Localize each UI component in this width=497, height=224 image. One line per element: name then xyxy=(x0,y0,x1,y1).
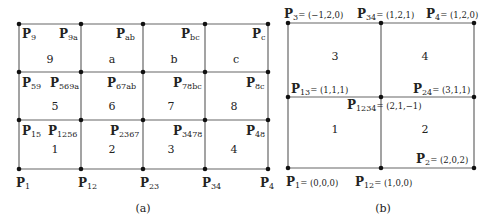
fig-a-point-label: P569a xyxy=(50,76,79,91)
fig-a-point-label: P23 xyxy=(140,176,159,191)
grid-a-vertex-dot xyxy=(266,22,271,27)
fig-a-cell-label: 4 xyxy=(231,143,238,156)
fig-a-cell-label: c xyxy=(233,53,239,66)
fig-b-cell-label: 4 xyxy=(422,50,429,63)
grid-a-vertex-dot xyxy=(79,70,84,75)
fig-b-cell-label: 1 xyxy=(332,123,339,136)
fig-a-point-label: P48 xyxy=(246,124,265,139)
grid-a-vertex-dot xyxy=(17,118,22,123)
grid-a-vertex-dot xyxy=(79,22,84,27)
coordinate-value: = (−1,2,0) xyxy=(298,10,343,20)
grid-b-vertex-dot xyxy=(472,95,477,100)
grid-a-vertex-dot xyxy=(17,70,22,75)
fig-b-point-label: P24= (3,1,1) xyxy=(413,82,470,97)
fig-a-point-label: Pc xyxy=(252,27,266,42)
fig-b-cell-label: 2 xyxy=(422,123,429,136)
fig-a-cell-label: 3 xyxy=(168,143,175,156)
coordinate-value: = (3,1,1) xyxy=(432,85,470,95)
fig-a-cell-label: 2 xyxy=(109,143,116,156)
fig-a-point-label: P78bc xyxy=(173,76,202,91)
fig-a-point-label: Pbc xyxy=(181,27,200,42)
grid-a-vertex-dot xyxy=(17,22,22,27)
fig-a-point-label: P4 xyxy=(260,176,274,191)
fig-b-point-label: P13= (1,1,1) xyxy=(291,82,348,97)
fig-b-point-label: P3= (−1,2,0) xyxy=(284,7,343,22)
fig-b-point-label: P34= (1,2,1) xyxy=(357,7,414,22)
grid-b-vertex-dot xyxy=(379,166,384,171)
fig-a-point-label: P15 xyxy=(22,124,41,139)
grid-a-vertex-dot xyxy=(266,167,271,172)
coordinate-value: = (1,2,0) xyxy=(440,10,478,20)
fig-a-point-label: P59 xyxy=(22,76,41,91)
fig-a-point-label: P1 xyxy=(16,176,30,191)
fig-b-point-label: P4= (1,2,0) xyxy=(426,7,478,22)
grid-a-vertex-dot xyxy=(266,118,271,123)
fig-a-point-label: P9 xyxy=(22,27,36,42)
grid-b-vertex-dot xyxy=(286,166,291,171)
grid-a-vertex-dot xyxy=(141,167,146,172)
grid-a-vertex-dot xyxy=(266,70,271,75)
fig-a-cell-label: 7 xyxy=(168,100,175,113)
grid-b-vertex-dot xyxy=(286,95,291,100)
grid-a-vertex-dot xyxy=(79,167,84,172)
fig-a-point-label: P34 xyxy=(202,176,221,191)
fig-a-point-label: P67ab xyxy=(107,76,136,91)
fig-a-cell-label: 9 xyxy=(47,53,54,66)
fig-b-point-label: P2= (2,0,2) xyxy=(416,152,468,167)
coordinate-value: = (2,0,2) xyxy=(430,155,468,165)
fig-a-cell-label: a xyxy=(109,53,116,66)
fig-a-cell-label: 6 xyxy=(109,100,116,113)
coordinate-value: = (1,1,1) xyxy=(310,85,348,95)
grid-a-vertex-dot xyxy=(79,118,84,123)
fig-b-point-label: P1234= (2,1,−1) xyxy=(347,98,422,113)
fig-a-cell-label: 1 xyxy=(52,143,59,156)
grid-a-vertex-dot xyxy=(141,22,146,27)
fig-b-point-label: P12= (1,0,0) xyxy=(355,175,412,190)
coordinate-value: = (2,1,−1) xyxy=(376,101,421,111)
fig-b-cell-label: 3 xyxy=(332,50,339,63)
grid-a-vertex-dot xyxy=(141,118,146,123)
coordinate-value: = (1,0,0) xyxy=(374,178,412,188)
coordinate-value: = (1,2,1) xyxy=(376,10,414,20)
grid-a-vertex-dot xyxy=(17,167,22,172)
grid-a-vertex-dot xyxy=(141,70,146,75)
fig-a-point-label: P12 xyxy=(78,176,97,191)
fig-a-cell-label: b xyxy=(170,53,177,66)
grid-a-vertex-dot xyxy=(203,118,208,123)
fig-a-point-label: P9a xyxy=(59,27,78,42)
fig-a-point-label: Pab xyxy=(116,27,135,42)
grid-b-vertex-dot xyxy=(472,166,477,171)
fig-a-point-label: P3478 xyxy=(173,124,202,139)
grid-a-vertex-dot xyxy=(203,22,208,27)
grid-a-vertex-dot xyxy=(203,70,208,75)
fig-a-point-label: P1256 xyxy=(48,124,77,139)
grid-a-vertex-dot xyxy=(203,167,208,172)
fig-a-cell-label: 5 xyxy=(52,100,59,113)
coordinate-value: = (0,0,0) xyxy=(300,178,338,188)
fig-b-point-label: P1= (0,0,0) xyxy=(286,175,338,190)
caption-a: (a) xyxy=(135,202,150,215)
fig-a-point-label: P8c xyxy=(246,76,265,91)
fig-a-point-label: P2367 xyxy=(110,124,139,139)
caption-b: (b) xyxy=(375,202,391,215)
fig-a-cell-label: 8 xyxy=(231,100,238,113)
